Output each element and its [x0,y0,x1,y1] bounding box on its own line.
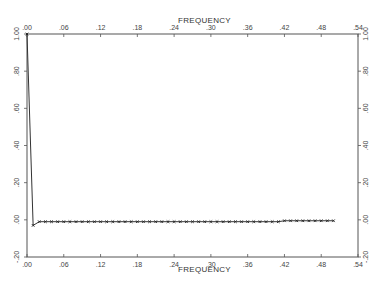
x-tick-label-top: .06 [59,24,69,31]
x-tick-label-bottom: .12 [96,261,106,268]
x-tick-label-top: .24 [169,24,179,31]
x-tick-label-top: .36 [243,24,253,31]
y-tick-label-left: 1.00 [13,27,20,41]
y-tick-label-left: .20 [13,178,20,188]
x-tick-label-bottom: .00 [22,261,32,268]
x-tick-label-top: .12 [96,24,106,31]
y-tick-label-right: .00 [362,215,369,225]
x-tick-label-bottom: .42 [280,261,290,268]
y-tick-label-left: .80 [13,66,20,76]
data-series [26,33,335,227]
x-tick-label-bottom: .48 [316,261,326,268]
y-tick-label-right: 1.00 [362,27,369,41]
y-tick-label-right: .20 [362,178,369,188]
x-axis-title-top: FREQUENCY [178,16,231,25]
x-tick-label-top: .00 [22,24,32,31]
x-tick-label-top: .42 [280,24,290,31]
x-axis-title-bottom: FREQUENCY [178,265,231,274]
y-tick-label-left: -.20 [13,251,20,263]
x-tick-label-top: .18 [132,24,142,31]
y-tick-label-left: .60 [13,103,20,113]
x-tick-label-top: .30 [206,24,216,31]
frequency-chart: .00.00.06.06.12.12.18.18.24.24.30.30.36.… [0,0,384,285]
axis-ticks [24,34,361,257]
y-tick-label-left: .00 [13,215,20,225]
plot-frame [27,34,358,257]
y-tick-label-left: .40 [13,141,20,151]
y-tick-label-right: .40 [362,141,369,151]
x-tick-label-top: .48 [316,24,326,31]
x-tick-label-bottom: .06 [59,261,69,268]
y-tick-label-right: .60 [362,103,369,113]
y-tick-label-right: -.20 [362,251,369,263]
y-tick-label-right: .80 [362,66,369,76]
x-tick-label-bottom: .36 [243,261,253,268]
axis-labels: .00.00.06.06.12.12.18.18.24.24.30.30.36.… [13,24,369,268]
x-tick-label-bottom: .18 [132,261,142,268]
